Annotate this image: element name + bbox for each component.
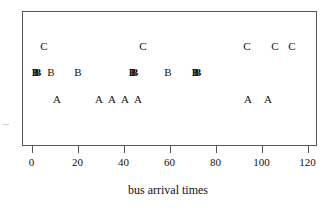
data-point-b: BB	[32, 67, 37, 78]
x-axis-tick-labels: 020406080100120	[22, 155, 317, 171]
data-point-b: B	[47, 67, 54, 78]
axis-tick	[170, 146, 171, 153]
data-point-a: A	[121, 94, 129, 105]
axis-tick-label: 100	[253, 155, 270, 169]
data-point-c: C	[271, 41, 278, 52]
data-point-c: C	[139, 41, 146, 52]
axis-tick-label: 40	[118, 155, 129, 169]
x-axis-title: bus arrival times	[0, 183, 336, 198]
axis-tick-label: 120	[299, 155, 316, 169]
data-point-a: A	[244, 94, 252, 105]
data-point-b: B	[74, 67, 81, 78]
data-point-c: C	[288, 41, 295, 52]
scan-artifact	[3, 124, 9, 125]
axis-tick	[308, 146, 309, 153]
data-point-a: A	[53, 94, 61, 105]
axis-tick	[32, 146, 33, 153]
data-point-c: C	[40, 41, 47, 52]
data-point-b: BB	[192, 67, 197, 78]
axis-tick	[262, 146, 263, 153]
data-point-c: C	[243, 41, 250, 52]
data-point-b: BB	[129, 67, 134, 78]
data-point-a: A	[264, 94, 272, 105]
data-point-a: A	[108, 94, 116, 105]
x-axis	[22, 146, 317, 154]
axis-tick-label: 20	[72, 155, 83, 169]
axis-tick-label: 80	[210, 155, 221, 169]
data-point-a: A	[134, 94, 142, 105]
data-point-a: A	[95, 94, 103, 105]
strip-plot-screenshot: CCCCCBBBBBBBBBAAAAAAA 020406080100120 bu…	[0, 0, 336, 217]
axis-tick	[78, 146, 79, 153]
data-point-b: B	[164, 67, 171, 78]
axis-tick-label: 0	[29, 155, 35, 169]
plot-area	[22, 11, 317, 146]
axis-tick-label: 60	[164, 155, 175, 169]
axis-tick	[216, 146, 217, 153]
axis-tick	[124, 146, 125, 153]
